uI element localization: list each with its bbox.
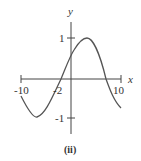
figure-caption: (ii) — [64, 144, 76, 155]
chart-plot — [0, 0, 141, 161]
x-tick-label-10: 10 — [113, 85, 124, 96]
y-axis-label: y — [68, 6, 73, 17]
y-tick-label-1: 1 — [59, 33, 65, 44]
y-tick-label-neg1: -1 — [55, 113, 64, 124]
x-axis-label: x — [128, 74, 133, 85]
x-tick-label-neg10: -10 — [14, 85, 29, 96]
x-tick-label-neg2: -2 — [53, 85, 62, 96]
